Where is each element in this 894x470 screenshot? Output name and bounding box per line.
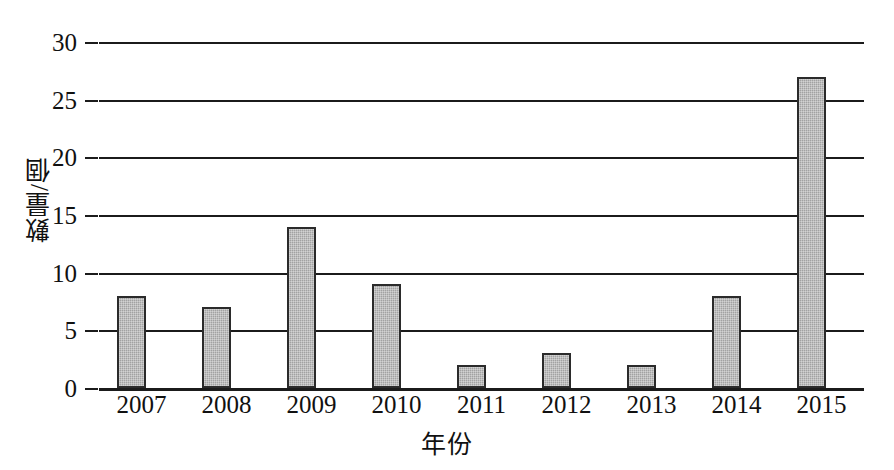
bar-2012	[542, 353, 571, 388]
y-tick-stub-30	[85, 42, 98, 44]
y-tick-stub-25	[85, 100, 98, 102]
y-tick-label-0: 0	[65, 376, 78, 401]
y-tick-label-20: 20	[52, 145, 77, 170]
x-tick-label-2007: 2007	[117, 392, 167, 417]
x-tick-label-2009: 2009	[287, 392, 337, 417]
x-axis-title: 年份	[0, 424, 894, 460]
bar-2011	[457, 365, 486, 388]
y-tick-label-5: 5	[65, 318, 78, 343]
bar-2013	[627, 365, 656, 388]
bar-2015	[797, 77, 826, 388]
bar-chart-figure: 數量/個 051015202530 2007200820092010201120…	[0, 0, 894, 470]
gridline-15	[99, 215, 864, 217]
y-tick-label-30: 30	[52, 30, 77, 55]
x-tick-label-2008: 2008	[202, 392, 252, 417]
x-tick-label-2014: 2014	[712, 392, 762, 417]
x-tick-label-2011: 2011	[457, 392, 506, 417]
bar-2010	[372, 284, 401, 388]
bar-2014	[712, 296, 741, 388]
bar-2009	[287, 227, 316, 388]
gridline-25	[99, 100, 864, 102]
x-tick-label-2010: 2010	[372, 392, 422, 417]
bar-2007	[117, 296, 146, 388]
y-tick-stub-20	[85, 157, 98, 159]
gridline-20	[99, 157, 864, 159]
y-tick-stub-15	[85, 215, 98, 217]
x-tick-label-2012: 2012	[542, 392, 592, 417]
y-tick-label-10: 10	[52, 260, 77, 285]
x-tick-label-2015: 2015	[797, 392, 847, 417]
y-tick-label-25: 25	[52, 87, 77, 112]
bar-2008	[202, 307, 231, 388]
gridline-10	[99, 273, 864, 275]
y-tick-stub-5	[85, 330, 98, 332]
y-tick-label-15: 15	[52, 203, 77, 228]
y-tick-stub-0	[85, 388, 98, 390]
x-tick-label-2013: 2013	[627, 392, 677, 417]
y-tick-stub-10	[85, 273, 98, 275]
plot-area: 051015202530	[99, 42, 864, 388]
gridline-30	[99, 42, 864, 44]
